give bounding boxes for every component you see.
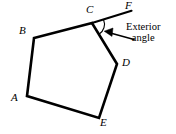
vertex-label-a: A <box>11 92 18 103</box>
exterior-angle-annotation-line2: angle <box>126 32 160 43</box>
vertex-label-c: C <box>86 4 93 15</box>
geometry-figure: A B C D E F Exterior angle <box>0 0 176 134</box>
vertex-label-f: F <box>125 0 132 11</box>
vertex-label-b: B <box>19 25 26 36</box>
vertex-label-e: E <box>100 117 107 128</box>
pentagon-abcde-shape <box>27 23 117 118</box>
exterior-angle-annotation-line1: Exterior <box>126 21 160 32</box>
exterior-angle-annotation: Exterior angle <box>126 21 160 44</box>
vertex-label-d: D <box>122 57 130 68</box>
